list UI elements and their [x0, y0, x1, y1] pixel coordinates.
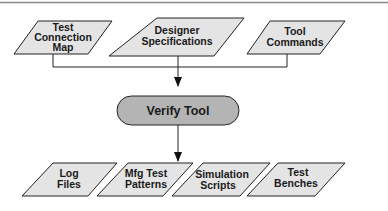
input-label-line: Specifications: [141, 35, 212, 47]
output-label-line: Benches: [274, 177, 318, 189]
input-label-line: Commands: [266, 36, 323, 48]
process-verify-tool: Verify Tool: [117, 96, 239, 125]
process-label: Verify Tool: [147, 104, 210, 118]
input-tool-commands: Tool Commands: [247, 21, 345, 54]
verify-tool-flow-diagram: Test Connection Map Designer Specificati…: [0, 0, 388, 211]
input-label-line: Map: [53, 41, 74, 53]
output-label-line: Scripts: [200, 179, 236, 191]
input-designer-specifications: Designer Specifications: [109, 18, 244, 56]
output-label-line: Files: [57, 178, 81, 190]
output-label-line: Patterns: [125, 178, 167, 190]
input-test-connection-map: Test Connection Map: [14, 21, 112, 54]
